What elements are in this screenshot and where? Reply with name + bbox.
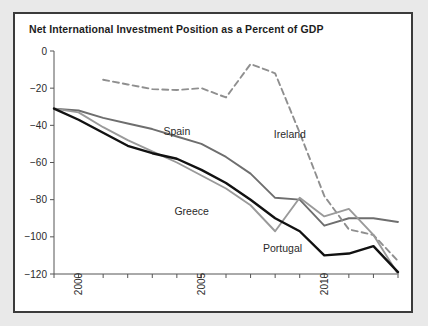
series-line-ireland [103,64,398,261]
series-label-spain: Spain [163,125,190,137]
x-tick-label: 2010 [319,272,330,295]
x-axis: 200020052010 [54,272,398,295]
y-tick-label: −120 [24,269,47,280]
series-label-ireland: Ireland [274,128,306,140]
y-tick-label: −80 [30,194,47,205]
y-tick-label: −40 [30,120,47,131]
chart-figure: Net International Investment Position as… [13,12,413,313]
x-tick-label: 2000 [73,272,84,295]
x-tick-label: 2005 [196,272,207,295]
series-line-spain [54,109,398,226]
y-tick-label: 0 [41,46,47,57]
series-line-portugal [54,109,398,273]
line-chart-plot: 0−20−40−60−80−100−120 200020052010 Spain… [15,14,411,311]
series-label-portugal: Portugal [263,242,302,254]
y-tick-label: −20 [30,83,47,94]
series-layer [54,64,398,274]
y-tick-label: −100 [24,231,47,242]
series-label-greece: Greece [174,205,209,217]
y-tick-label: −60 [30,157,47,168]
y-axis: 0−20−40−60−80−100−120 [24,46,54,280]
